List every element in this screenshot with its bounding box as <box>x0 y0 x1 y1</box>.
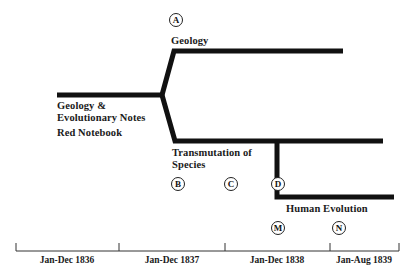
marker-b: B <box>171 177 185 191</box>
trunk-sublabel: Red Notebook <box>57 127 122 139</box>
marker-a: A <box>169 13 183 27</box>
geology-label: Geology <box>171 35 208 47</box>
marker-n: N <box>332 221 346 235</box>
axis-label-1839: Jan-Aug 1839 <box>336 255 392 265</box>
axis-label-1838: Jan-Dec 1838 <box>250 255 305 265</box>
transmutation-label-line2: Species <box>172 159 205 171</box>
trunk-label-line1: Geology & <box>57 100 106 112</box>
marker-m: M <box>271 221 285 235</box>
axis-label-1837: Jan-Dec 1837 <box>145 255 200 265</box>
trunk-label-line2: Evolutionary Notes <box>57 112 145 124</box>
human-evolution-branch-line <box>277 141 394 197</box>
axis-label-1836: Jan-Dec 1836 <box>40 255 95 265</box>
geology-branch-line <box>162 51 343 95</box>
transmutation-label-line1: Transmutation of <box>172 147 252 159</box>
marker-d: D <box>271 177 285 191</box>
transmutation-branch-line <box>162 95 383 141</box>
marker-c: C <box>224 177 238 191</box>
human-evolution-label: Human Evolution <box>286 203 368 215</box>
